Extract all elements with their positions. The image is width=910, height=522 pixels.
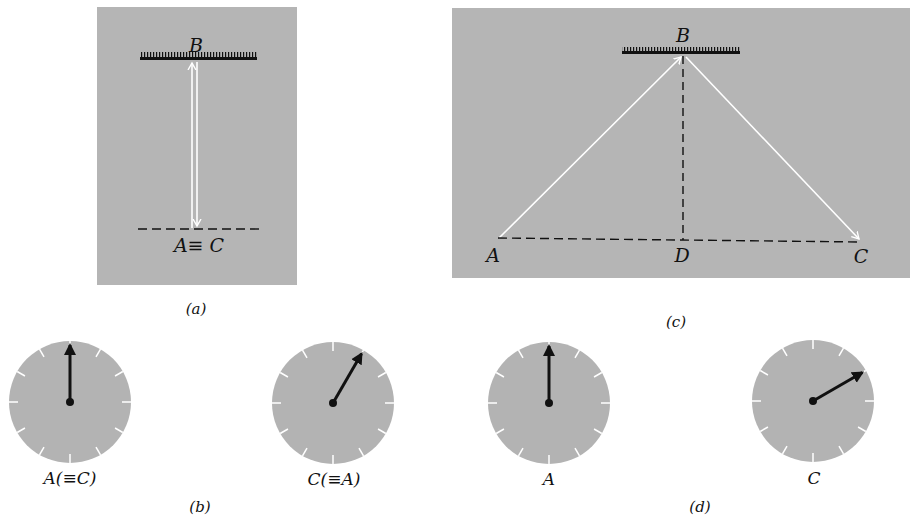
clock-label-c: C <box>807 468 820 488</box>
caption-a: (a) <box>186 300 207 318</box>
point-label-d: D <box>673 244 689 266</box>
clocks <box>9 340 874 464</box>
panel-c: B A D C <box>452 8 910 278</box>
caption-b: (b) <box>189 498 210 516</box>
point-label-a-equiv-c: A≡ C <box>172 234 225 256</box>
point-label-a: A <box>484 244 500 266</box>
panel-a: B A≡ C <box>97 7 297 285</box>
mirror-icon <box>622 47 740 54</box>
clock-label-a: A <box>541 469 555 489</box>
clock-label-a-equiv-c: A(≡C) <box>42 468 97 488</box>
clock-a-panel-d-icon <box>488 342 610 464</box>
figure-canvas: B A≡ C (a) B A D C (c) A(≡C) C(≡A) (b) A… <box>0 0 910 522</box>
point-label-c: C <box>854 245 869 267</box>
caption-d: (d) <box>689 498 710 516</box>
clock-c-panel-b-icon <box>272 342 394 464</box>
clock-label-c-equiv-a: C(≡A) <box>308 469 361 489</box>
caption-c: (c) <box>666 313 686 331</box>
mirror-label-b: B <box>675 24 690 46</box>
mirror-icon <box>140 52 257 60</box>
clock-a-panel-b-icon <box>9 341 131 463</box>
clock-c-panel-d-icon <box>752 340 874 462</box>
